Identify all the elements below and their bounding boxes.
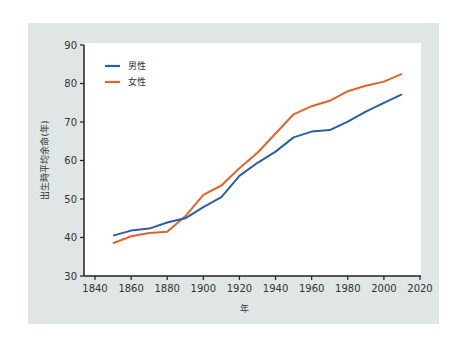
x-tick-label: 1940	[263, 283, 288, 294]
y-tick-label: 40	[64, 232, 77, 243]
y-tick-label: 50	[64, 194, 77, 205]
y-tick-label: 90	[64, 40, 77, 51]
x-tick-label: 1980	[335, 283, 360, 294]
y-tick-label: 80	[64, 78, 77, 89]
series-male-line	[113, 94, 402, 235]
axes: 3040506070809018401860188019001920194019…	[64, 40, 432, 295]
x-tick-label: 1840	[82, 283, 107, 294]
x-tick-label: 2000	[371, 283, 396, 294]
y-axis-title: 出生時平均余命(年)	[39, 120, 50, 199]
y-tick-label: 60	[64, 155, 77, 166]
x-tick-label: 1960	[299, 283, 324, 294]
x-tick-label: 1920	[227, 283, 252, 294]
y-tick-label: 70	[64, 117, 77, 128]
legend: 男性 女性	[105, 60, 146, 87]
x-axis-title: 年	[240, 303, 249, 314]
x-tick-label: 1900	[191, 283, 216, 294]
legend-label-female: 女性	[128, 76, 146, 87]
series-female-line	[113, 74, 402, 243]
legend-label-male: 男性	[128, 60, 146, 71]
x-tick-label: 1880	[154, 283, 179, 294]
line-chart: 3040506070809018401860188019001920194019…	[0, 0, 463, 342]
series-layer	[113, 74, 402, 243]
y-tick-label: 30	[64, 271, 77, 282]
x-tick-label: 1860	[118, 283, 143, 294]
x-tick-label: 2020	[407, 283, 432, 294]
